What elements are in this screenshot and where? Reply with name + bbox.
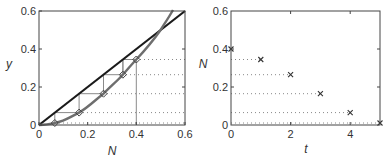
map-curve — [39, 10, 173, 125]
right-xtick-label: 2 — [288, 128, 294, 140]
right-ticks — [231, 11, 380, 125]
figure: 0 0.2 0.4 0.6 0 0.2 0.4 0.6 N y — [0, 0, 387, 160]
left-ytick-label: 0.6 — [21, 5, 36, 17]
left-xtick-label: 0.2 — [80, 128, 95, 140]
right-axes-frame — [231, 11, 380, 125]
right-dotted-guides — [231, 60, 380, 124]
x-marker — [288, 72, 293, 77]
left-xtick-label: 0.6 — [177, 128, 192, 140]
x-marker — [318, 91, 323, 96]
left-axes: 0 0.2 0.4 0.6 0 0.2 0.4 0.6 N y — [5, 5, 193, 158]
left-ytick-label: 0.2 — [21, 81, 36, 93]
left-xtick-label: 0.4 — [129, 128, 144, 140]
right-axes: 0 2 4 0 0.2 0.4 0.6 t N — [199, 5, 383, 156]
diamond-markers — [51, 56, 140, 127]
left-xtick-label: 0 — [36, 128, 42, 140]
right-ytick-label: 0.4 — [213, 43, 228, 55]
left-dotted-guides — [55, 60, 185, 124]
right-ylabel: N — [199, 57, 208, 71]
left-ytick-label: 0.4 — [21, 43, 36, 55]
right-ytick-label: 0.6 — [213, 5, 228, 17]
right-xlabel: t — [304, 142, 308, 156]
right-xtick-label: 4 — [347, 128, 353, 140]
left-xlabel: N — [108, 144, 117, 158]
x-markers — [229, 47, 383, 126]
right-xtick-label: 0 — [228, 128, 234, 140]
right-ytick-label: 0 — [222, 119, 228, 131]
x-marker — [348, 110, 353, 115]
left-ytick-label: 0 — [30, 119, 36, 131]
left-ylabel: y — [5, 57, 13, 71]
cobweb-path — [55, 60, 137, 126]
right-ytick-label: 0.2 — [213, 81, 228, 93]
